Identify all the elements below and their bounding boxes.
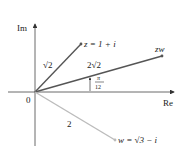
- angle-numerator: π: [97, 75, 101, 81]
- vector-w: [35, 92, 115, 140]
- zw-label: zw: [154, 44, 165, 54]
- point-z: [80, 43, 83, 46]
- z-modulus-label: √2: [43, 60, 52, 70]
- w-modulus-label: 2: [67, 119, 72, 129]
- complex-plane-diagram: Im Re 0 z = 1 + i √2 zw 2√2 w = √3 − i 2…: [0, 0, 184, 155]
- angle-denominator: 12: [95, 84, 101, 90]
- real-axis-label: Re: [163, 98, 173, 108]
- point-zw: [161, 55, 164, 58]
- point-w: [114, 139, 117, 142]
- imaginary-axis-label: Im: [17, 23, 27, 33]
- w-label: w = √3 − i: [118, 135, 158, 145]
- origin-label: 0: [26, 95, 31, 105]
- zw-modulus-label: 2√2: [87, 60, 101, 70]
- z-label: z = 1 + i: [83, 39, 116, 49]
